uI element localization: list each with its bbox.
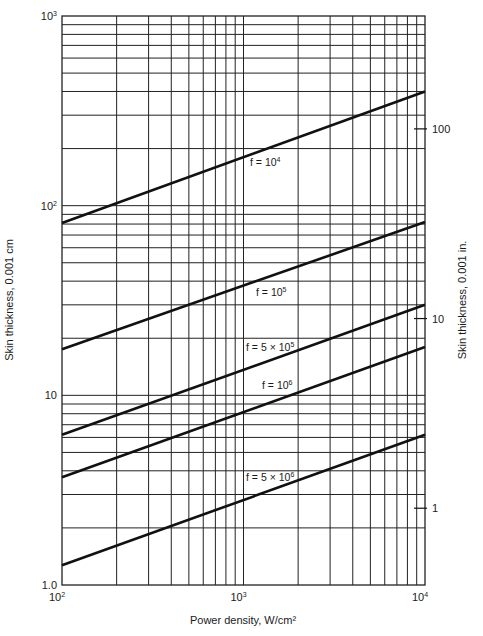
x-tick-label: 103 — [230, 591, 246, 603]
y-tick-label-left: 1.0 — [42, 579, 57, 591]
x-tick-labels: 102103104 — [49, 591, 428, 603]
y-tick-labels-left: 1.010102103 — [41, 10, 57, 591]
x-tick-label: 102 — [49, 591, 65, 603]
y-tick-labels-right: 100101 — [414, 123, 450, 514]
curve-labels: f = 104f = 105f = 5 × 105f = 106f = 5 × … — [246, 156, 294, 483]
curve-label: f = 5 × 105 — [246, 341, 294, 353]
y-tick-label-right: 1 — [432, 502, 438, 514]
curve-label: f = 104 — [250, 156, 281, 168]
x-axis-label: Power density, W/cm² — [190, 614, 296, 626]
curve-label: f = 105 — [256, 286, 287, 298]
y-tick-label-right: 100 — [432, 123, 450, 135]
y-tick-label-left: 10 — [45, 389, 57, 401]
skin-thickness-chart: f = 104f = 105f = 5 × 105f = 106f = 5 × … — [0, 0, 483, 636]
y-axis-label-right: Skin thickness, 0.001 in. — [456, 241, 468, 360]
y-tick-label-left: 102 — [41, 200, 57, 212]
y-tick-label-left: 103 — [41, 10, 57, 22]
curve-label: f = 5 × 106 — [246, 471, 294, 483]
y-axis-label-left: Skin thickness, 0.001 cm — [3, 239, 15, 361]
y-tick-label-right: 10 — [432, 313, 444, 325]
curve-label: f = 106 — [262, 379, 293, 391]
x-tick-label: 104 — [412, 591, 428, 603]
